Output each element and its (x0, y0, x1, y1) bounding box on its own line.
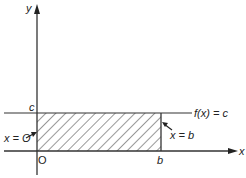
shaded-region (37, 113, 161, 151)
x-axis-label: x (238, 145, 245, 157)
c-label: c (29, 101, 35, 113)
y-axis-label: y (25, 2, 33, 14)
y-axis-arrow-icon (34, 4, 40, 14)
left-boundary-label: x = O (3, 132, 31, 144)
function-label: f(x) = c (194, 107, 228, 119)
b-label: b (157, 154, 163, 166)
diagram-canvas: y x O c b f(x) = c x = O x = b (0, 0, 246, 178)
x-axis-arrow-icon (228, 148, 238, 154)
right-boundary-label: x = b (169, 129, 194, 141)
origin-label: O (38, 154, 47, 166)
